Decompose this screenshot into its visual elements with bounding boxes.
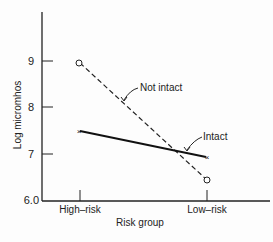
x-marker: × — [205, 153, 210, 162]
circle-marker — [76, 60, 82, 66]
arrow-head-icon — [184, 147, 190, 151]
x-marker: × — [77, 127, 82, 136]
y-axis-label: Log micromhos — [12, 81, 23, 149]
y-tick-label: 6.0 — [24, 194, 39, 206]
circle-marker — [204, 177, 210, 183]
x-axis-label: Risk group — [116, 217, 164, 228]
annotation-intact: Intact — [203, 131, 228, 142]
x-tick-label: High–risk — [59, 204, 102, 215]
arrow-head-icon — [121, 97, 127, 101]
y-tick-label: 8 — [28, 101, 34, 113]
chart: 9 8 7 6.0 High–risk Low–risk Risk group … — [0, 0, 273, 242]
series-intact-line — [80, 131, 206, 157]
y-tick-label: 7 — [28, 148, 34, 160]
series-not-intact-line — [80, 63, 207, 180]
y-tick-label: 9 — [28, 55, 34, 67]
x-tick-label: Low–risk — [187, 204, 227, 215]
annotation-not-intact: Not intact — [140, 82, 182, 93]
